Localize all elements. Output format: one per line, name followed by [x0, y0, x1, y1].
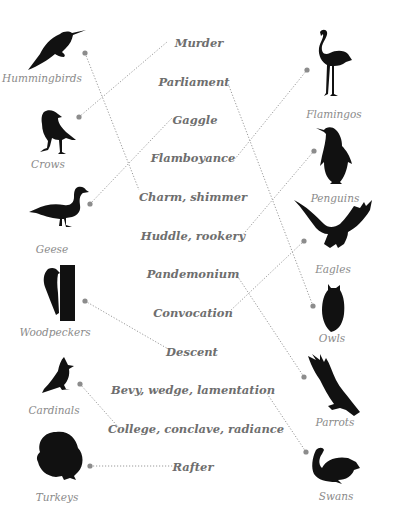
- connector-parrots: [236, 274, 304, 377]
- bird-label-geese: Geese: [36, 243, 68, 255]
- bird-label-swans: Swans: [319, 490, 354, 502]
- bird-label-cardinals: Cardinals: [28, 404, 79, 416]
- dot-cardinals: [77, 381, 82, 386]
- term-murder: Murder: [175, 36, 224, 50]
- bird-label-flamingos: Flamingos: [306, 108, 361, 120]
- turkey-icon: [34, 430, 86, 482]
- bird-label-penguins: Penguins: [311, 192, 360, 204]
- term-bevy-wedge-lamentation: Bevy, wedge, lamentation: [111, 383, 275, 397]
- term-flamboyance: Flamboyance: [151, 151, 236, 165]
- term-college-conclave-radiance: College, conclave, radiance: [108, 422, 284, 436]
- dot-woodpeckers: [82, 298, 87, 303]
- term-descent: Descent: [166, 345, 218, 359]
- dot-turkeys: [87, 463, 92, 468]
- owl-icon: [320, 282, 346, 332]
- term-convocation: Convocation: [153, 306, 233, 320]
- swan-icon: [310, 446, 362, 484]
- term-charm-shimmer: Charm, shimmer: [139, 190, 247, 204]
- dot-swans: [303, 449, 308, 454]
- bird-label-turkeys: Turkeys: [36, 491, 79, 503]
- bird-label-hummingbirds: Hummingbirds: [2, 72, 82, 84]
- eagle-icon: [292, 198, 374, 252]
- parrot-icon: [306, 354, 362, 418]
- cardinal-icon: [40, 355, 78, 395]
- connector-crows: [79, 42, 167, 117]
- dot-flamingos: [304, 67, 309, 72]
- hummingbird-icon: [26, 28, 88, 72]
- crow-icon: [36, 108, 80, 156]
- bird-label-owls: Owls: [319, 332, 345, 344]
- flamingo-icon: [312, 28, 354, 98]
- bird-label-woodpeckers: Woodpeckers: [19, 326, 90, 338]
- dot-owls: [310, 303, 315, 308]
- connector-flamingos: [235, 70, 307, 159]
- term-pandemonium: Pandemonium: [147, 267, 240, 281]
- connector-hummingbirds: [85, 53, 139, 190]
- bird-label-eagles: Eagles: [315, 263, 351, 275]
- penguin-icon: [314, 124, 354, 184]
- term-huddle-rookery: Huddle, rookery: [141, 229, 245, 243]
- woodpecker-icon: [40, 265, 76, 321]
- goose-icon: [28, 185, 90, 231]
- bird-label-parrots: Parrots: [316, 416, 355, 428]
- term-rafter: Rafter: [173, 460, 214, 474]
- bird-collective-nouns-diagram: Hummingbirds Crows Geese Woodpeckers Car…: [0, 0, 394, 529]
- term-gaggle: Gaggle: [172, 113, 217, 127]
- bird-label-crows: Crows: [31, 158, 65, 170]
- term-parliament: Parliament: [158, 75, 229, 89]
